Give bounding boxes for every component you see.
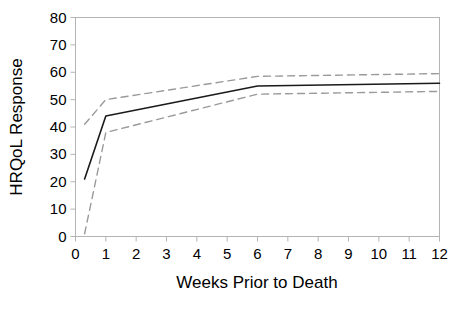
y-axis-tick-label: 40 bbox=[50, 118, 67, 135]
x-axis-title: Weeks Prior to Death bbox=[176, 273, 337, 292]
x-axis-tick-label: 3 bbox=[162, 245, 170, 262]
x-axis-tick-label: 11 bbox=[401, 245, 417, 262]
x-axis-tick-label: 6 bbox=[253, 245, 261, 262]
y-axis-tick-label: 70 bbox=[50, 36, 67, 53]
x-axis-tick-label: 8 bbox=[314, 245, 322, 262]
x-axis-tick-label: 1 bbox=[102, 245, 110, 262]
plot-frame bbox=[76, 18, 440, 237]
x-axis-tick-label: 12 bbox=[431, 245, 448, 262]
y-axis-tick-label: 10 bbox=[50, 200, 67, 217]
y-axis-tick-label: 30 bbox=[50, 145, 67, 162]
x-axis-tick-label: 10 bbox=[370, 245, 387, 262]
y-axis-tick-label: 50 bbox=[50, 91, 67, 108]
chart-container: 01020304050607080 0123456789101112 Weeks… bbox=[0, 0, 460, 309]
y-axis-tick-label: 0 bbox=[58, 228, 66, 245]
y-axis-tick-label: 20 bbox=[50, 173, 67, 190]
y-axis-tick-labels: 01020304050607080 bbox=[50, 9, 67, 245]
x-axis-tick-label: 9 bbox=[344, 245, 352, 262]
x-axis-tick-label: 4 bbox=[193, 245, 201, 262]
y-axis-tick-label: 80 bbox=[50, 9, 67, 26]
x-axis-tick-label: 0 bbox=[71, 245, 79, 262]
x-axis-tick-label: 5 bbox=[223, 245, 231, 262]
x-axis-tick-label: 2 bbox=[132, 245, 140, 262]
x-axis-tick-label: 7 bbox=[284, 245, 292, 262]
y-axis-tick-label: 60 bbox=[50, 63, 67, 80]
hrqol-line-chart: 01020304050607080 0123456789101112 Weeks… bbox=[0, 0, 460, 309]
y-axis-title: HRQoL Response bbox=[7, 58, 26, 195]
